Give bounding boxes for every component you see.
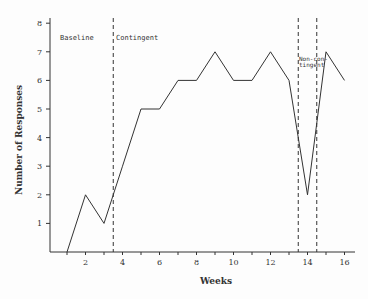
x-tick-label: 10: [228, 258, 238, 267]
x-tick-label: 2: [83, 258, 88, 267]
noncontingent-label-2: tingent: [299, 61, 325, 69]
line-chart: 12345678 246810121416 Baseline Contingen…: [0, 0, 368, 299]
y-tick-label: 5: [37, 105, 42, 114]
x-ticks: 246810121416: [67, 252, 350, 267]
y-tick-label: 6: [37, 76, 42, 85]
baseline-label: Baseline: [60, 34, 94, 42]
y-tick-label: 3: [37, 162, 42, 171]
x-tick-label: 8: [194, 258, 199, 267]
x-tick-label: 12: [265, 258, 275, 267]
x-axis-title: Weeks: [199, 276, 232, 286]
x-tick-label: 4: [120, 258, 125, 267]
data-line: [67, 52, 345, 252]
y-tick-label: 7: [37, 48, 42, 57]
y-tick-label: 4: [37, 134, 42, 143]
y-tick-label: 2: [37, 191, 42, 200]
x-tick-label: 6: [157, 258, 162, 267]
axes: [50, 18, 355, 252]
y-tick-label: 1: [37, 219, 42, 228]
phase-change-lines: [113, 18, 317, 252]
y-tick-label: 8: [37, 19, 42, 28]
y-axis-title: Number of Responses: [14, 85, 24, 195]
x-tick-label: 16: [339, 258, 349, 267]
contingent-label: Contingent: [116, 34, 158, 42]
y-ticks: 12345678: [37, 19, 50, 228]
x-tick-label: 14: [302, 258, 312, 267]
